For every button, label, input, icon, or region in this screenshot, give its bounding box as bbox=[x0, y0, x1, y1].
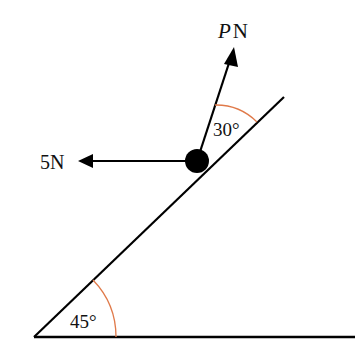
angle-label-30: 30° bbox=[213, 119, 240, 140]
force-5n-arrowhead bbox=[78, 154, 93, 168]
particle-ball bbox=[185, 149, 209, 173]
force-5n-label: 5N bbox=[40, 151, 64, 173]
force-p-unit: N bbox=[233, 19, 248, 43]
force-diagram: 45° 5N PN 30° bbox=[0, 0, 362, 358]
force-p-label: PN bbox=[217, 19, 248, 43]
force-p-arrowhead bbox=[224, 47, 238, 67]
force-p-variable: P bbox=[217, 19, 231, 43]
force-p-shaft bbox=[197, 60, 230, 161]
incline-line bbox=[34, 97, 284, 337]
angle-label-45: 45° bbox=[70, 311, 97, 332]
